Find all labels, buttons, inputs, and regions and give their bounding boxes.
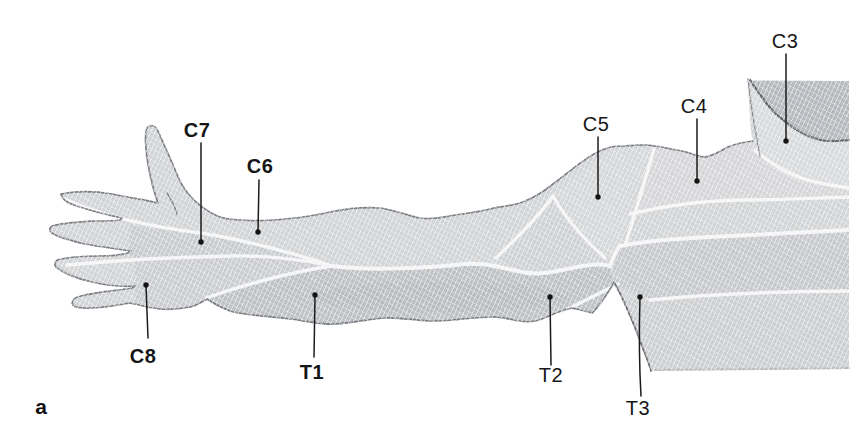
leader-line-c8 [146, 285, 148, 338]
label-t3: T3 [626, 397, 650, 420]
leader-dot-c5 [595, 194, 600, 199]
label-c4: C4 [681, 95, 708, 118]
label-c8: C8 [130, 345, 157, 368]
leader-dot-t2 [547, 294, 552, 299]
panel-letter: a [35, 395, 47, 419]
leader-line-t1 [314, 295, 315, 357]
leader-dot-c3 [783, 138, 788, 143]
leader-dot-c7 [198, 239, 203, 244]
leader-dot-c4 [694, 178, 699, 183]
label-c7: C7 [184, 119, 211, 142]
leader-dot-c8 [143, 282, 148, 287]
label-c6: C6 [247, 155, 274, 178]
label-t1: T1 [300, 361, 324, 384]
leader-dot-c6 [255, 229, 260, 234]
label-c5: C5 [583, 113, 610, 136]
leader-line-t2 [550, 297, 551, 365]
leader-line-t3 [639, 297, 641, 396]
leader-dot-t1 [312, 292, 317, 297]
leader-line-c6 [258, 180, 259, 232]
annotation-layer [0, 0, 855, 448]
leader-dot-t3 [637, 294, 642, 299]
label-c3: C3 [772, 30, 799, 53]
dermatome-figure-panel: C3 C4 C5 C6 C7 C8 T1 T2 T3 a [0, 0, 855, 448]
label-t2: T2 [539, 364, 563, 387]
